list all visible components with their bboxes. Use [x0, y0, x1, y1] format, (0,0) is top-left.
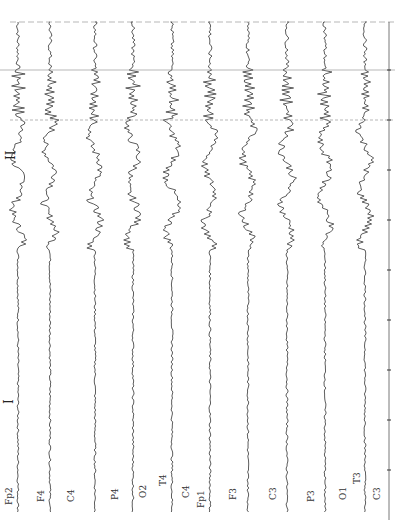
channel-label-t3: T3	[352, 472, 362, 484]
channel-label-p4: P4	[110, 488, 120, 500]
channel-label-fp1: Fp1	[196, 490, 206, 508]
eeg-channel-trace	[201, 22, 218, 512]
eeg-channel-trace	[163, 22, 181, 512]
eeg-channel-trace	[86, 22, 104, 512]
channel-label-c4: C4	[66, 489, 76, 502]
eeg-figure: I II Fp2 F4 C4 P4 O2 T4 C4 Fp1 F3 C3 P3 …	[0, 0, 403, 526]
eeg-traces	[0, 0, 403, 526]
segment-marker-i: I	[2, 399, 16, 404]
channel-label-f3: F3	[228, 488, 238, 500]
channel-label-o2: O2	[138, 485, 148, 498]
eeg-channel-trace	[278, 22, 297, 512]
eeg-channel-trace	[356, 22, 374, 512]
eeg-channel-trace	[317, 22, 334, 512]
channel-label-fp2: Fp2	[4, 487, 14, 505]
channel-label-f4: F4	[36, 490, 46, 502]
eeg-channel-trace	[238, 22, 257, 512]
channel-label-o1: O1	[338, 487, 348, 500]
channel-label-c4b: C4	[181, 485, 191, 498]
channel-label-p3: P3	[306, 490, 316, 502]
channel-label-c3b: C3	[372, 487, 382, 500]
channel-label-t4: T4	[158, 474, 168, 486]
eeg-channel-trace	[124, 22, 141, 512]
segment-marker-ii: II	[4, 151, 18, 160]
channel-label-c3: C3	[268, 487, 278, 500]
eeg-channel-trace	[9, 22, 26, 512]
eeg-channel-trace	[41, 22, 60, 512]
